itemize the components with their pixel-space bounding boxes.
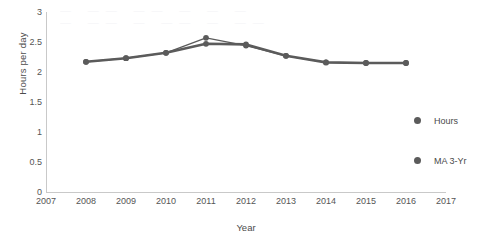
legend-item-hours[interactable]: Hours <box>404 114 492 128</box>
data-point-marker <box>403 60 409 66</box>
legend-label: Hours <box>434 116 458 126</box>
data-point-marker <box>283 53 289 59</box>
chart-legend: Hours MA 3-Yr <box>404 114 492 194</box>
data-point-marker <box>323 60 329 66</box>
data-point-marker <box>123 55 129 61</box>
x-axis-tick: 2009 <box>104 196 148 206</box>
data-point-marker <box>363 60 369 66</box>
x-axis-tick: 2017 <box>424 196 468 206</box>
x-axis-tick: 2011 <box>184 196 228 206</box>
line-chart: — —— —— — — — — —— — —— — —— Hours per d… <box>0 0 492 241</box>
data-point-marker <box>203 41 209 47</box>
x-axis-tick: 2012 <box>224 196 268 206</box>
data-point-marker <box>163 50 169 56</box>
x-axis-tick: 2013 <box>264 196 308 206</box>
legend-line-icon <box>404 155 430 167</box>
x-axis-tick: 2007 <box>24 196 68 206</box>
data-point-marker <box>203 35 209 41</box>
legend-label: MA 3-Yr <box>434 156 467 166</box>
legend-line-icon <box>404 115 430 127</box>
x-axis-tick: 2016 <box>384 196 428 206</box>
data-point-marker <box>83 59 89 65</box>
x-axis-tick: 2010 <box>144 196 188 206</box>
x-axis-tick: 2015 <box>344 196 388 206</box>
x-axis-tick: 2008 <box>64 196 108 206</box>
x-axis-tick: 2014 <box>304 196 348 206</box>
data-point-marker <box>243 42 249 48</box>
legend-item-ma-3yr[interactable]: MA 3-Yr <box>404 154 492 168</box>
